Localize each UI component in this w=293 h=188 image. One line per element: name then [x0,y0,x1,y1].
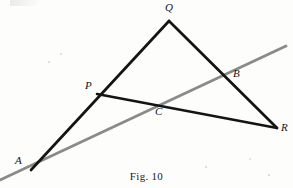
point-label-Q: Q [165,2,173,13]
point-label-A: A [15,155,22,166]
geometry-drawing [0,0,293,188]
figure-caption: Fig. 10 [0,170,293,182]
point-label-R: R [281,122,288,133]
point-label-C: C [155,106,162,117]
point-label-P: P [85,80,92,91]
segment-transversal [0,46,286,180]
figure-10-container: A Q R P C B Fig. 10 [0,0,293,188]
point-label-B: B [233,68,240,79]
